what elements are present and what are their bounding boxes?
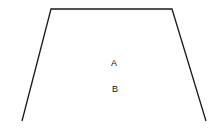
diagram-canvas: A B (0, 0, 211, 138)
diagram-svg: A B (0, 0, 211, 138)
label-a: A (111, 58, 117, 68)
label-b: B (112, 84, 118, 94)
